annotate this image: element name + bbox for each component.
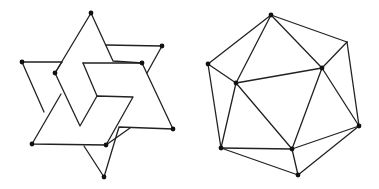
vertex-dot bbox=[30, 142, 35, 147]
vertex-dot bbox=[296, 173, 301, 178]
edge-line bbox=[22, 62, 62, 112]
vertex-dot bbox=[357, 124, 362, 129]
edge-line bbox=[271, 15, 322, 68]
edge-line bbox=[236, 15, 271, 83]
edge-line bbox=[208, 64, 236, 83]
vertex-dot bbox=[53, 71, 58, 76]
edge-line bbox=[221, 83, 236, 148]
edge-line bbox=[221, 148, 298, 175]
vertex-dot bbox=[206, 62, 211, 67]
edge-line bbox=[347, 42, 359, 126]
edge-line bbox=[292, 149, 298, 175]
edge-line bbox=[32, 13, 133, 145]
edge-line bbox=[271, 15, 347, 42]
interlocking-star-figure bbox=[20, 11, 176, 180]
vertex-dot bbox=[89, 11, 94, 16]
edge-line bbox=[236, 83, 292, 149]
edge-line bbox=[322, 42, 347, 68]
vertex-dot bbox=[269, 13, 274, 18]
edge-line bbox=[83, 63, 97, 96]
edge-line bbox=[298, 126, 359, 175]
edge-line bbox=[208, 64, 221, 148]
vertex-dot bbox=[290, 147, 295, 152]
vertex-dot bbox=[171, 127, 176, 132]
vertex-dot bbox=[102, 175, 107, 180]
icosahedron-figure bbox=[206, 13, 362, 178]
vertex-dot bbox=[234, 81, 239, 86]
vertex-dot bbox=[160, 44, 165, 49]
figure-svg bbox=[0, 0, 379, 189]
diagram-canvas bbox=[0, 0, 379, 189]
edge-line bbox=[84, 13, 173, 177]
vertex-dot bbox=[104, 143, 109, 148]
vertex-dot bbox=[219, 146, 224, 151]
edge-line bbox=[292, 126, 359, 149]
edge-line bbox=[221, 148, 292, 149]
vertex-dot bbox=[20, 60, 25, 65]
edge-line bbox=[236, 68, 322, 83]
edge-line bbox=[106, 45, 162, 73]
edge-line bbox=[322, 68, 359, 126]
edge-line bbox=[208, 15, 271, 64]
vertex-dot bbox=[140, 61, 145, 66]
edge-line bbox=[292, 68, 322, 149]
vertex-dot bbox=[320, 66, 325, 71]
